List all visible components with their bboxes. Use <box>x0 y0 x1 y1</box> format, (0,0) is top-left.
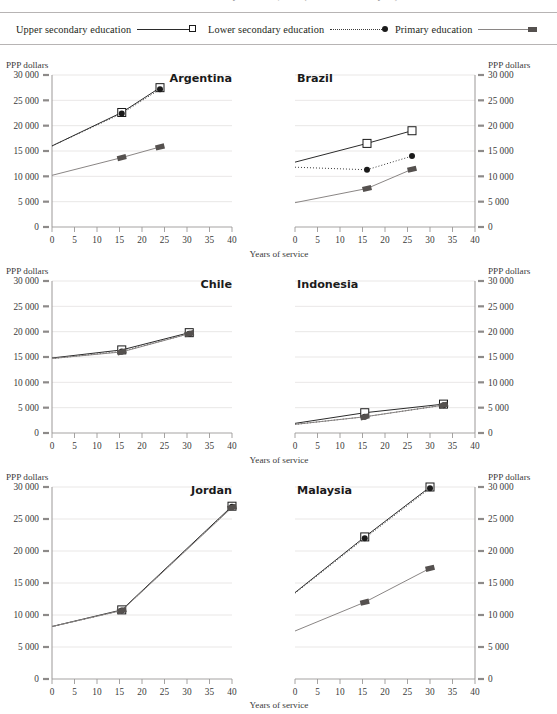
y-tick-label: 5 000 <box>18 642 39 652</box>
y-axis-unit-label: PPP dollars <box>488 266 530 276</box>
x-tick-label: 5 <box>72 687 77 697</box>
legend-label-lower-secondary: Lower secondary education <box>208 24 324 35</box>
legend-item-lower-secondary: Lower secondary education <box>208 15 392 43</box>
x-tick-label: 10 <box>92 235 102 245</box>
x-tick-label: 10 <box>92 687 102 697</box>
filled-circle-marker-icon <box>362 535 368 541</box>
y-tick-label: 15 000 <box>488 352 514 362</box>
y-tick-label: 5 000 <box>18 197 39 207</box>
x-tick-label: 25 <box>160 441 170 451</box>
series-line <box>295 568 430 631</box>
filled-circle-marker-icon <box>119 111 125 117</box>
chart-title-argentina: Argentina <box>170 72 232 85</box>
series-line <box>295 169 412 202</box>
legend-item-upper-secondary: Upper secondary education <box>16 15 201 43</box>
y-tick-label: 20 000 <box>13 327 39 337</box>
filled-circle-marker-icon <box>409 153 415 159</box>
open-square-marker-icon <box>408 127 416 135</box>
x-tick-label: 30 <box>182 441 192 451</box>
series-line <box>52 507 232 626</box>
y-tick-label: 25 000 <box>13 514 39 524</box>
legend-line-dotted <box>330 29 384 30</box>
chart-title-brazil: Brazil <box>297 72 333 85</box>
series-line <box>295 131 412 162</box>
legend-line-solid-primary <box>478 29 533 30</box>
y-tick-label: 20 000 <box>488 121 514 131</box>
y-tick-label: 0 <box>488 674 493 684</box>
x-tick-label: 5 <box>315 687 320 697</box>
x-tick-label: 15 <box>358 441 368 451</box>
y-tick-label: 25 000 <box>13 96 39 106</box>
x-tick-label: 0 <box>293 441 298 451</box>
y-tick-label: 15 000 <box>13 146 39 156</box>
legend-sample-upper-secondary <box>137 23 201 35</box>
chart-panel-jordan: 05 00010 00015 00020 00025 00030 0000510… <box>0 467 278 707</box>
x-tick-label: 10 <box>335 687 345 697</box>
x-tick-label: 15 <box>115 441 125 451</box>
x-tick-label: 10 <box>335 441 345 451</box>
y-tick-label: 25 000 <box>13 302 39 312</box>
x-tick-label: 5 <box>315 441 320 451</box>
x-tick-label: 10 <box>335 235 345 245</box>
x-tick-label: 30 <box>425 235 435 245</box>
x-tick-label: 30 <box>182 687 192 697</box>
y-tick-label: 30 000 <box>13 482 39 492</box>
chart-title-chile: Chile <box>201 278 232 291</box>
y-tick-label: 0 <box>34 674 39 684</box>
legend-label-upper-secondary: Upper secondary education <box>16 24 131 35</box>
x-tick-label: 35 <box>205 235 215 245</box>
x-tick-label: 0 <box>50 235 55 245</box>
filled-rectangle-marker-icon <box>117 154 127 161</box>
y-tick-label: 5 000 <box>488 403 509 413</box>
y-tick-label: 15 000 <box>13 352 39 362</box>
chart-panel-argentina: 05 00010 00015 00020 00025 00030 0000510… <box>0 55 278 255</box>
x-tick-label: 40 <box>227 235 237 245</box>
x-tick-label: 0 <box>50 441 55 451</box>
open-square-marker-icon <box>189 25 196 32</box>
y-tick-label: 20 000 <box>488 546 514 556</box>
y-axis-unit-label: PPP dollars <box>488 472 530 482</box>
chart-svg: 05 00010 00015 00020 00025 00030 0000510… <box>0 467 278 707</box>
x-tick-label: 30 <box>425 441 435 451</box>
x-tick-label: 20 <box>380 235 390 245</box>
x-tick-label: 25 <box>403 441 413 451</box>
x-tick-label: 20 <box>380 441 390 451</box>
y-tick-label: 0 <box>488 428 493 438</box>
filled-circle-marker-icon <box>382 26 388 32</box>
y-tick-label: 30 000 <box>13 70 39 80</box>
legend-sample-primary <box>478 23 542 35</box>
legend-label-primary: Primary education <box>395 24 472 35</box>
legend-bottom-rule <box>0 44 557 45</box>
filled-rectangle-marker-icon <box>155 143 165 150</box>
cut-off-figure-title-text: and lower secondary education, 2015 (or … <box>0 0 557 1</box>
y-tick-label: 0 <box>34 222 39 232</box>
y-tick-label: 15 000 <box>488 146 514 156</box>
y-axis-unit-label: PPP dollars <box>6 266 48 276</box>
y-axis-unit-label: PPP dollars <box>6 472 48 482</box>
filled-rectangle-marker-icon <box>425 565 435 572</box>
x-tick-label: 20 <box>380 687 390 697</box>
legend-sample-lower-secondary <box>330 23 392 35</box>
x-tick-label: 5 <box>72 441 77 451</box>
x-tick-label: 0 <box>293 687 298 697</box>
x-tick-label: 40 <box>227 441 237 451</box>
y-tick-label: 30 000 <box>488 276 514 286</box>
x-tick-label: 0 <box>293 235 298 245</box>
y-axis-unit-label: PPP dollars <box>6 60 48 70</box>
y-tick-label: 25 000 <box>488 514 514 524</box>
chart-svg: 05 00010 00015 00020 00025 00030 0000510… <box>0 55 278 255</box>
y-tick-label: 25 000 <box>488 302 514 312</box>
series-line <box>52 507 232 627</box>
x-tick-label: 40 <box>470 441 480 451</box>
chart-panel-brazil: 05 00010 00015 00020 00025 00030 0000510… <box>279 55 557 255</box>
y-axis-unit-label: PPP dollars <box>488 60 530 70</box>
series-line <box>295 156 412 170</box>
y-tick-label: 0 <box>34 428 39 438</box>
x-tick-label: 20 <box>137 235 147 245</box>
legend-item-primary: Primary education <box>395 15 542 43</box>
legend-line-solid <box>137 29 193 30</box>
y-tick-label: 15 000 <box>488 578 514 588</box>
x-tick-label: 5 <box>72 235 77 245</box>
chart-panel-chile: 05 00010 00015 00020 00025 00030 0000510… <box>0 261 278 461</box>
chart-title-malaysia: Malaysia <box>297 484 352 497</box>
